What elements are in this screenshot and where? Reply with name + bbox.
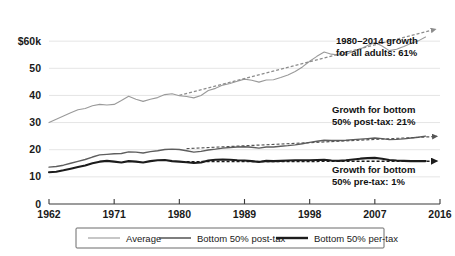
y-tick-label-30: 30: [29, 116, 41, 128]
x-tick-label-1962: 1962: [37, 208, 61, 220]
x-tick-label-2016: 2016: [428, 208, 452, 220]
annotation-bottom-post-tax-line2: 50% post-tax: 21%: [332, 116, 416, 127]
x-tick-label-2007: 2007: [363, 208, 387, 220]
annotation-bottom-post-tax: Growth for bottom 50% post-tax: 21%: [332, 104, 416, 127]
annotation-bottom-pre-tax-line2: 50% pre-tax: 1%: [332, 176, 405, 187]
x-tick-label-1971: 1971: [102, 208, 126, 220]
legend: AverageBottom 50% post-taxBottom 50% per…: [76, 228, 398, 248]
annotation-all-adults-line1: 1980–2014 growth: [336, 35, 418, 46]
annotation-bottom-post-tax-line1: Growth for bottom: [332, 104, 415, 115]
annotation-bottom-pre-tax-line1: Growth for bottom: [332, 164, 415, 175]
x-tick-label-1989: 1989: [233, 208, 257, 220]
y-tick-label-10: 10: [29, 170, 41, 182]
x-tick-label-1980: 1980: [168, 208, 192, 220]
y-tick-label-50: 50: [29, 62, 41, 74]
legend-label-1: Bottom 50% post-tax: [197, 233, 285, 244]
y-tick-label-20: 20: [29, 143, 41, 155]
x-tick-label-1998: 1998: [298, 208, 322, 220]
annotation-all-adults: 1980–2014 growth for all adults: 61%: [336, 35, 418, 58]
legend-label-2: Bottom 50% per-tax: [314, 233, 398, 244]
y-tick-label-40: 40: [29, 89, 41, 101]
income-growth-line-chart: 01020304050$60k 196219711980198919982007…: [0, 0, 455, 256]
annotation-bottom-pre-tax: Growth for bottom 50% pre-tax: 1%: [332, 164, 415, 187]
trend-line-bottom-pre-tax-trend: [187, 161, 438, 162]
y-tick-label-$60k: $60k: [18, 35, 42, 47]
legend-label-0: Average: [126, 233, 161, 244]
annotation-all-adults-line2: for all adults: 61%: [336, 47, 418, 58]
chart-container: 01020304050$60k 196219711980198919982007…: [0, 0, 455, 256]
